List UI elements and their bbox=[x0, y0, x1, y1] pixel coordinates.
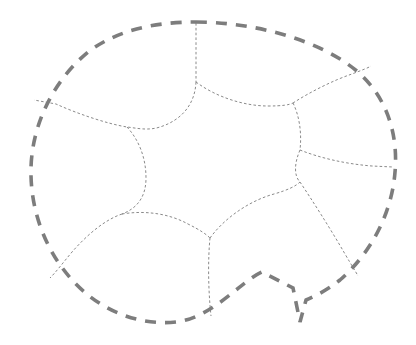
diagram-canvas bbox=[0, 0, 416, 345]
partition-diagram-svg bbox=[0, 0, 416, 345]
canvas-background bbox=[0, 0, 416, 345]
